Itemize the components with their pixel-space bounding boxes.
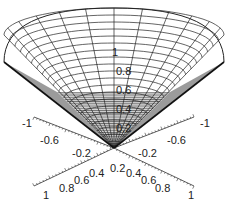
tick-label: 1	[188, 189, 194, 201]
tick-label: 0.8	[155, 182, 170, 194]
cone-surface-plot: 1 0.8 0.6 0.4 0.2 -1 -0.6 -0.2 -1 -0.6 -…	[0, 0, 228, 201]
tick-label: 0.8	[59, 182, 74, 194]
z-label-0.6: 0.6	[116, 84, 131, 96]
back-left-labels: -1 -0.6 -0.2	[22, 117, 91, 159]
tick-label: -0.2	[72, 147, 91, 159]
back-right-labels: -1 -0.6 -0.2	[138, 117, 210, 159]
tick-label: 0.4	[89, 167, 104, 179]
front-right-labels: 0.4 0.6 0.8 1	[126, 167, 194, 201]
tick-label: 0.4	[126, 167, 141, 179]
tick-label: -0.6	[167, 134, 186, 146]
tick-label: 0.6	[74, 174, 89, 186]
tick-label: -1	[200, 117, 210, 129]
tick-label: 1	[43, 189, 49, 201]
z-label-0.2: 0.2	[116, 122, 131, 134]
tick-label: 0.6	[141, 174, 156, 186]
front-left-labels: 0.2 0.4 0.6 0.8 1	[43, 162, 125, 201]
tick-label: -1	[22, 117, 32, 129]
tick-label: 0.2	[110, 162, 125, 174]
z-label-0.4: 0.4	[116, 103, 131, 115]
z-label-1: 1	[112, 46, 118, 58]
cone-surface	[4, 8, 224, 148]
tick-label: -0.2	[138, 147, 157, 159]
z-label-0.8: 0.8	[116, 65, 131, 77]
tick-label: -0.6	[40, 134, 59, 146]
